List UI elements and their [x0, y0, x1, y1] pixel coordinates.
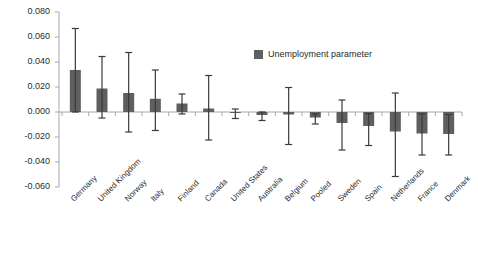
y-axis-tick-label: 0.080 — [0, 6, 50, 16]
bar-group[interactable] — [70, 29, 81, 113]
bar-group[interactable] — [443, 112, 454, 155]
bar-group[interactable] — [390, 93, 401, 177]
bar-group[interactable] — [97, 57, 108, 119]
bar-group[interactable] — [123, 53, 134, 133]
y-axis-tick-label: -0.060 — [0, 181, 50, 191]
bar-group[interactable] — [417, 112, 428, 155]
bar-group[interactable] — [230, 109, 241, 119]
y-axis-tick-label: -0.020 — [0, 131, 50, 141]
bar-group[interactable] — [257, 112, 268, 121]
chart-container: 0.0800.0600.0400.0200.000-0.020-0.040-0.… — [0, 0, 478, 267]
unemployment-parameter-bar-chart — [0, 0, 478, 267]
bar-group[interactable] — [177, 94, 188, 114]
bar-group[interactable] — [150, 70, 161, 131]
y-axis-tick-label: 0.020 — [0, 81, 50, 91]
y-axis-tick-label: -0.040 — [0, 156, 50, 166]
bar-group[interactable] — [337, 100, 348, 150]
y-axis-tick-label: 0.060 — [0, 31, 50, 41]
bar-group[interactable] — [283, 88, 294, 145]
y-axis-tick-label: 0.040 — [0, 56, 50, 66]
bar-group[interactable] — [363, 112, 374, 146]
y-axis-tick-label: 0.000 — [0, 106, 50, 116]
bar-group[interactable] — [310, 112, 321, 124]
legend-swatch — [254, 50, 263, 59]
bar-group[interactable] — [203, 76, 214, 141]
legend-label: Unemployment parameter — [268, 49, 372, 59]
